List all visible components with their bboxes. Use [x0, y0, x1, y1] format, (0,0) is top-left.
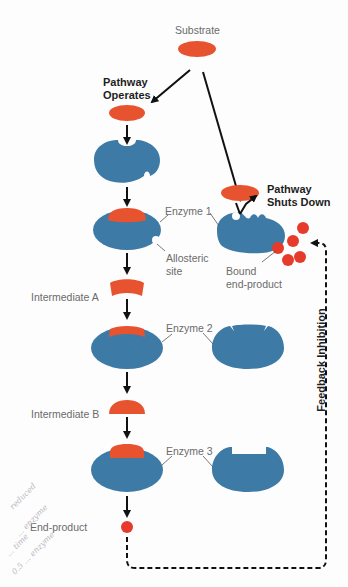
pathway-operates-label-line1: Pathway [103, 76, 148, 89]
intermediate-b-label: Intermediate B [31, 408, 99, 420]
substrate-molecule-left [109, 105, 145, 121]
intermediate-a-molecule [110, 279, 144, 296]
enzyme-3-label: Enzyme 3 [166, 445, 213, 457]
enzyme2-free [212, 325, 284, 370]
end-product-label: End-product [30, 521, 87, 533]
bound-end-product-label-line1: Bound [226, 265, 256, 277]
allosteric-site-label-line1: Allosteric [166, 252, 209, 264]
intermediate-a-label: Intermediate A [31, 291, 99, 303]
enzyme-2-label: Enzyme 2 [166, 322, 213, 334]
bound-end-product-label-line2: end-product [226, 278, 282, 290]
arrow-to-pathway-shuts-down [203, 72, 240, 200]
end-product-molecule [121, 521, 133, 533]
allosteric-site-label-line2: site [166, 265, 182, 277]
intermediate-b-molecule [109, 400, 145, 414]
enzyme3-free [212, 447, 284, 492]
enzyme1-free [94, 140, 160, 183]
feedback-inhibition-label: Feedback Inhibition [315, 305, 327, 415]
substrate-molecule [178, 41, 216, 57]
pathway-shuts-down-label-line2: Shuts Down [267, 196, 331, 209]
enzyme1-inhibited [217, 212, 285, 254]
diagram-canvas: Substrate Pathway Operates Pathway Shuts… [0, 0, 348, 587]
pathway-operates-label-line2: Operates [103, 89, 151, 102]
feedback-inhibition-path [127, 243, 326, 568]
enzyme2-substrate-complex [91, 326, 163, 369]
enzyme1-substrate-complex [93, 208, 161, 250]
enzyme3-substrate-complex [91, 444, 163, 492]
enzyme-1-label: Enzyme 1 [165, 205, 212, 217]
substrate-label: Substrate [175, 24, 220, 36]
arrow-to-pathway-operates [152, 70, 190, 102]
pathway-shuts-down-label-line1: Pathway [267, 183, 312, 196]
free-end-products [282, 222, 309, 266]
